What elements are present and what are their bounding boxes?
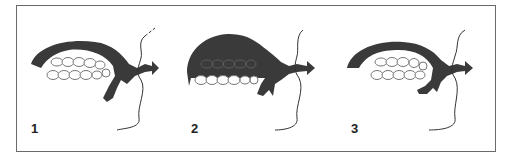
panel-label-2: 2 xyxy=(191,121,198,136)
jaw-diagram-3 xyxy=(337,6,497,153)
jaw-diagram-1 xyxy=(17,6,177,153)
panel-label-1: 1 xyxy=(31,121,38,136)
panel-1: 1 xyxy=(17,6,177,153)
panel-label-3: 3 xyxy=(351,121,358,136)
panel-3: 3 xyxy=(337,6,497,153)
panel-2: 2 xyxy=(177,6,337,153)
figure-frame: 1 2 3 xyxy=(16,5,496,152)
jaw-diagram-2 xyxy=(177,6,337,153)
